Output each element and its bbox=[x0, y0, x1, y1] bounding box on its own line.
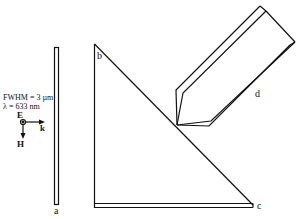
plate-a bbox=[55, 48, 59, 205]
probe-d bbox=[176, 6, 295, 126]
h-field-label: H bbox=[17, 140, 24, 149]
diagram-drawing bbox=[0, 0, 303, 219]
k-vector-label: k bbox=[40, 124, 45, 133]
label-b: b bbox=[97, 51, 102, 61]
fwhm-text: FWHM = 3 µm bbox=[3, 94, 53, 102]
diagram: a b c d FWHM = 3 µm λ = 633 nm E k H bbox=[0, 0, 303, 219]
prism-triangle bbox=[95, 44, 254, 208]
label-a: a bbox=[54, 206, 58, 216]
e-field-label: E bbox=[17, 111, 23, 120]
label-c: c bbox=[257, 201, 261, 211]
label-d: d bbox=[255, 89, 260, 99]
